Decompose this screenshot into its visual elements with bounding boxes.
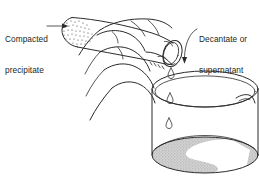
label-decantate-supernatant: Decantate or supernatant (199, 14, 247, 96)
decantation-figure: Compacted precipitate Decantate or super… (0, 0, 259, 185)
palm-crease (86, 70, 104, 96)
finger-little (112, 82, 155, 103)
finger-middle-crease (118, 48, 123, 60)
label-decantate-supernatant-line1: Decantate or (199, 34, 247, 44)
label-decantate-supernatant-line2: supernatant (199, 65, 247, 75)
left-arrowhead (62, 23, 69, 28)
label-compacted-precipitate-line2: precipitate (5, 65, 48, 75)
wrist-edge-upper (79, 30, 100, 55)
drop-3 (166, 118, 172, 129)
finger-index-crease (112, 32, 118, 44)
label-compacted-precipitate: Compacted precipitate (5, 14, 48, 96)
right-leader-line (185, 29, 198, 58)
compacted-precipitate-stipple (63, 20, 92, 47)
right-arrowhead (182, 57, 187, 64)
drop-1 (168, 68, 174, 79)
hand (79, 19, 172, 120)
liquid-drops (166, 68, 174, 129)
beaker-liquid (150, 134, 259, 178)
tube-lower-wall (78, 47, 166, 64)
test-tube (62, 18, 185, 70)
label-compacted-precipitate-line1: Compacted (5, 34, 48, 44)
finger-index (97, 31, 145, 51)
tube-upper-wall (72, 18, 173, 44)
wrist-edge-lower (90, 88, 112, 120)
finger-ring (104, 64, 154, 88)
palm-crease-2 (85, 52, 100, 74)
